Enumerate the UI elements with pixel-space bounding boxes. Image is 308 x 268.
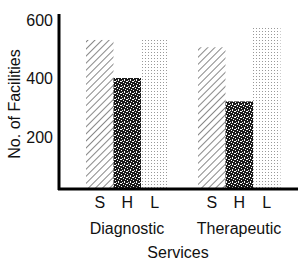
series-letter-s: S bbox=[206, 194, 217, 211]
bar-diagnostic-h bbox=[114, 78, 142, 188]
series-letters: SHLSHL bbox=[94, 194, 271, 211]
series-letter-l: L bbox=[150, 194, 159, 211]
y-tick-400: 400 bbox=[26, 70, 53, 87]
category-label-diagnostic: Diagnostic bbox=[90, 220, 165, 237]
series-letter-s: S bbox=[94, 194, 105, 211]
x-axis-title: Services bbox=[147, 244, 208, 261]
bar-therapeutic-h bbox=[226, 101, 254, 188]
category-label-therapeutic: Therapeutic bbox=[197, 220, 282, 237]
series-letter-h: H bbox=[121, 194, 133, 211]
y-tick-600: 600 bbox=[26, 12, 53, 29]
bar-diagnostic-s bbox=[86, 40, 114, 188]
bar-therapeutic-s bbox=[198, 47, 226, 188]
bar-chart: 600 400 200 No. of Facilities SHLSHL Dia… bbox=[0, 0, 308, 268]
series-letter-h: H bbox=[233, 194, 245, 211]
bar-therapeutic-l bbox=[253, 27, 281, 188]
y-axis-title: No. of Facilities bbox=[6, 49, 23, 158]
bar-diagnostic-l bbox=[141, 40, 169, 188]
bars-group bbox=[86, 27, 281, 188]
y-tick-200: 200 bbox=[26, 129, 53, 146]
series-letter-l: L bbox=[262, 194, 271, 211]
